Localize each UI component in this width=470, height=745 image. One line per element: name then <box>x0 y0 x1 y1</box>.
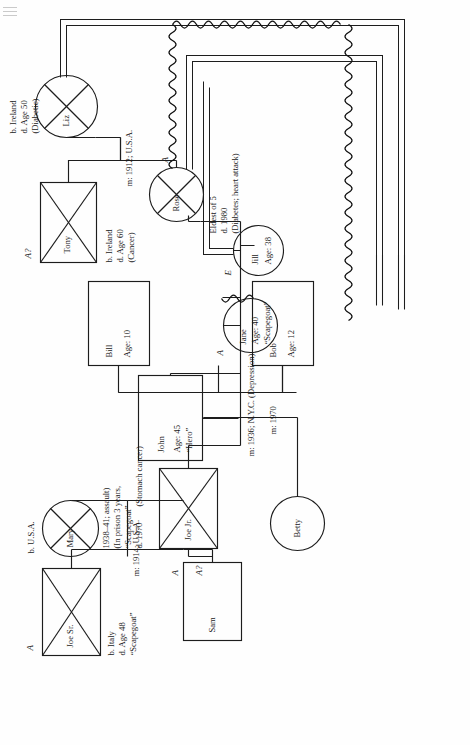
person-age-john: Age: 45 <box>172 425 182 452</box>
notes-joejr-4: 1938–41; assault) <box>101 487 111 548</box>
notes-joesr-0: b. Italy <box>106 631 116 655</box>
genogram-canvas: Tony A? b. Ireland d. Age 60 (Cancer) Li… <box>0 0 470 745</box>
code-label-joejr: A <box>169 570 179 576</box>
person-label-joesr: Joe Sr. <box>65 624 75 647</box>
notes-tony-1: d. Age 60 <box>115 229 125 262</box>
person-label-jill: Jill <box>250 253 260 264</box>
person-label-joejr: Joe Jr. <box>183 519 193 540</box>
notes-joejr-1: (Stomach cancer) <box>134 446 144 506</box>
marriage-label-tony-liz: m: 1912; U.S.A. <box>124 129 134 186</box>
notes-mary-0: b. U.S.A. <box>26 521 36 553</box>
genogram-page: Tony A? b. Ireland d. Age 60 (Cancer) Li… <box>0 0 470 745</box>
person-label-liz: Liz <box>61 115 71 126</box>
notes-rose-1: d. 1980 <box>219 207 229 233</box>
notes-liz-1: d. Age 50 <box>19 100 29 133</box>
person-age-bill: Age: 10 <box>122 330 132 357</box>
code-label-sam: A? <box>193 565 203 575</box>
person-label-rose: Rose <box>171 194 181 211</box>
notes-joesr-1: d. Age 48 <box>117 622 127 655</box>
notes-joejr-3: (In prison 3 years, <box>112 485 122 548</box>
person-label-sam: Sam <box>207 617 217 632</box>
notes-tony-2: (Cancer) <box>126 232 136 262</box>
notes-tony-0: b. Ireland <box>104 229 114 262</box>
person-label-betty: Betty <box>292 518 302 537</box>
person-label-tony: Tony <box>62 235 72 253</box>
code-label-tony: A? <box>22 248 32 258</box>
person-age-jill: Age: 38 <box>263 237 273 264</box>
marriage-label-john-betty: m: 1970 <box>268 406 278 434</box>
person-label-jane: Jane <box>238 329 248 344</box>
code-label-rose: A <box>159 157 169 163</box>
notes-liz-2: (Diabetic) <box>30 98 40 133</box>
person-tag-john: “Hero” <box>184 427 194 452</box>
notes-joesr-2: “Scapegoat” <box>128 612 138 655</box>
notes-rose-0: Eldest of 5 <box>208 196 218 233</box>
notes-liz-0: b. Ireland <box>8 100 18 133</box>
notes-joejr-0: d. 1970 <box>134 522 144 548</box>
person-age-bob: Age: 12 <box>286 330 296 357</box>
code-label-jane: A <box>214 350 224 356</box>
person-label-mary: Mary <box>65 528 75 547</box>
code-label-joesr: A <box>24 645 34 651</box>
person-age-jane: Age: 40 <box>250 317 260 344</box>
person-shape-bill <box>88 281 149 365</box>
person-tag-jane: “Scapegoat” <box>262 301 272 344</box>
person-label-john: John <box>156 436 166 452</box>
marriage-label-joejr-rose: m: 1936; N.Y.C. (Depression) <box>246 353 256 456</box>
notes-rose-2: (Diabetes; heart attack) <box>230 153 240 233</box>
notes-joejr-2: “Scapegoat” <box>123 505 133 548</box>
person-label-bob: Bob <box>268 343 278 357</box>
person-label-bill: Bill <box>104 344 114 357</box>
code-label-jill: E <box>222 270 232 276</box>
